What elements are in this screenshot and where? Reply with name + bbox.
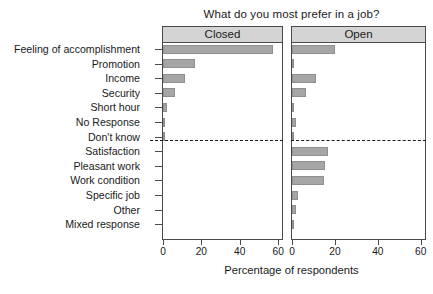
chart-container: What do you most prefer in a job? Feelin… (0, 0, 433, 294)
y-axis-tick (155, 64, 162, 65)
y-axis-label: Don't know (88, 131, 140, 143)
bar (163, 74, 185, 83)
panel-closed: Closed (162, 26, 283, 240)
x-axis-tick (421, 240, 422, 245)
x-axis-tick (335, 240, 336, 245)
chart-title: What do you most prefer in a job? (150, 8, 433, 20)
y-axis-tick (155, 210, 162, 211)
x-axis-tick (163, 240, 164, 245)
bar (292, 205, 296, 214)
y-axis-tick (155, 180, 162, 181)
y-axis-tick (155, 137, 162, 138)
y-axis-tick (155, 166, 162, 167)
y-axis-label: No Response (76, 116, 140, 128)
x-axis-tick-label: 40 (234, 246, 245, 257)
bar (163, 59, 195, 68)
y-axis-label: Promotion (92, 58, 140, 70)
bar (292, 147, 328, 156)
bar (163, 45, 273, 54)
bar (292, 161, 325, 170)
panel-header-closed: Closed (162, 26, 283, 43)
x-axis-tick-label: 20 (329, 246, 340, 257)
y-axis-tick (155, 122, 162, 123)
y-axis-label: Mixed response (65, 218, 140, 230)
bar (292, 45, 335, 54)
x-axis-title: Percentage of respondents (150, 264, 433, 276)
bar (292, 220, 294, 229)
plot-area-closed (162, 43, 283, 240)
y-axis-tick (155, 151, 162, 152)
y-axis-label: Feeling of accomplishment (14, 43, 140, 55)
x-axis-tick (278, 240, 279, 245)
y-axis-label: Security (102, 87, 140, 99)
y-axis-tick (155, 78, 162, 79)
bar (292, 118, 296, 127)
x-axis-tick-label: 0 (160, 246, 166, 257)
y-axis-label: Pleasant work (73, 160, 140, 172)
panel-open: Open (291, 26, 426, 240)
y-axis-tick (155, 107, 162, 108)
y-axis-label: Work condition (70, 174, 140, 186)
bar (163, 88, 175, 97)
bar (292, 191, 298, 200)
y-axis-label: Specific job (86, 189, 140, 201)
y-axis-label: Income (105, 72, 140, 84)
y-axis-label: Satisfaction (85, 145, 140, 157)
y-axis-tick (155, 49, 162, 50)
bar (292, 88, 306, 97)
y-axis-tick (155, 224, 162, 225)
x-axis-tick-label: 0 (289, 246, 295, 257)
panel-header-open: Open (291, 26, 426, 43)
x-axis-tick (292, 240, 293, 245)
category-group-divider-open (291, 140, 426, 141)
y-axis-tick (155, 195, 162, 196)
bar (292, 103, 294, 112)
bar (163, 103, 167, 112)
x-axis-tick-label: 60 (272, 246, 283, 257)
bar (292, 74, 316, 83)
bar (163, 118, 165, 127)
x-axis-tick-label: 40 (372, 246, 383, 257)
x-axis-tick-label: 60 (415, 246, 426, 257)
x-axis-tick (240, 240, 241, 245)
x-axis-tick (201, 240, 202, 245)
bar (292, 176, 324, 185)
bar (292, 59, 294, 68)
x-axis-tick-label: 20 (196, 246, 207, 257)
category-group-divider-left (150, 140, 283, 141)
plot-area-open (291, 43, 426, 240)
x-axis-tick (378, 240, 379, 245)
y-axis-label: Other (114, 204, 141, 216)
y-axis-tick (155, 93, 162, 94)
y-axis-label: Short hour (91, 101, 140, 113)
